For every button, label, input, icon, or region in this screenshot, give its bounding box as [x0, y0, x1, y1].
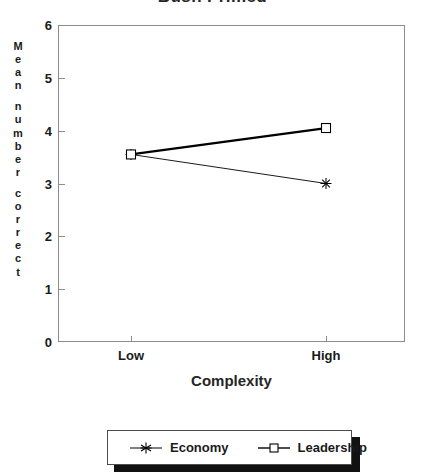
- y-tick-label: 6: [36, 18, 52, 33]
- y-axis-title-letter: a: [8, 66, 28, 79]
- x-tick-label: High: [291, 348, 361, 363]
- y-axis-title-letter: c: [8, 252, 28, 265]
- y-tick-mark: [59, 236, 65, 237]
- x-tick-mark: [131, 336, 132, 342]
- y-tick-label: 1: [36, 282, 52, 297]
- y-tick-mark: [59, 131, 65, 132]
- plot-area: [58, 25, 405, 342]
- y-axis-title-letter: t: [8, 266, 28, 279]
- y-axis-title-letter: u: [8, 113, 28, 126]
- y-axis-title-letter: r: [8, 226, 28, 239]
- y-axis-title-letter: e: [8, 153, 28, 166]
- y-tick-label: 3: [36, 176, 52, 191]
- y-axis-title-word-gap: [8, 179, 28, 187]
- y-axis-title-letter: b: [8, 140, 28, 153]
- x-tick-mark: [326, 336, 327, 342]
- y-axis-title-letter: e: [8, 53, 28, 66]
- x-axis-title: Complexity: [58, 372, 405, 389]
- chart-title: Bush Primed: [0, 0, 425, 7]
- y-axis-title: M e a n n u m b e r c o r r e c t: [8, 40, 28, 279]
- y-tick-mark: [59, 78, 65, 79]
- legend-label-leadership: Leadership: [298, 440, 367, 455]
- y-axis-title-letter: n: [8, 100, 28, 113]
- legend-item-economy[interactable]: Economy: [129, 440, 229, 455]
- y-axis-title-letter: n: [8, 79, 28, 92]
- square-marker-icon: [257, 441, 291, 455]
- y-axis-title-letter: e: [8, 239, 28, 252]
- legend-label-economy: Economy: [170, 440, 229, 455]
- y-tick-mark: [59, 184, 65, 185]
- y-tick-label: 5: [36, 70, 52, 85]
- y-axis-title-letter: r: [8, 166, 28, 179]
- y-axis-title-letter: M: [8, 40, 28, 53]
- star-marker-icon: [129, 441, 163, 455]
- y-axis-title-letter: o: [8, 200, 28, 213]
- y-tick-label: 4: [36, 123, 52, 138]
- y-axis-title-letter: c: [8, 187, 28, 200]
- x-tick-label: Low: [96, 348, 166, 363]
- y-axis-title-word-gap: [8, 92, 28, 100]
- y-axis-title-letter: m: [8, 127, 28, 140]
- y-tick-label: 2: [36, 229, 52, 244]
- y-tick-mark: [59, 289, 65, 290]
- legend-item-leadership[interactable]: Leadership: [257, 440, 367, 455]
- y-tick-label: 0: [36, 335, 52, 350]
- chart-legend: Economy Leadership: [107, 430, 352, 465]
- y-axis-title-letter: r: [8, 213, 28, 226]
